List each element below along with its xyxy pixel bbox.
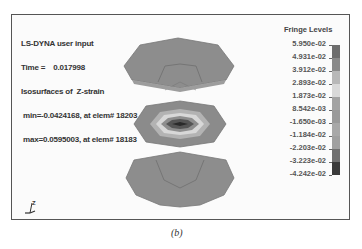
- legend-color-swatch: [332, 149, 340, 162]
- legend-label: 2.893e-02: [266, 78, 326, 87]
- axis-triad-icon: Z: [24, 200, 40, 217]
- legend-tick: [329, 175, 332, 176]
- legend-label: -1.650e-03: [266, 117, 326, 126]
- legend-color-swatch: [332, 45, 340, 58]
- figure-caption: (b): [171, 227, 183, 238]
- legend-title: Fringe Levels: [284, 25, 332, 34]
- legend-color-swatch: [332, 123, 340, 136]
- legend-label: -1.184e-02: [266, 130, 326, 139]
- svg-text:Z: Z: [32, 200, 36, 206]
- legend-color-swatch: [332, 71, 340, 84]
- legend-label: 1.873e-02: [266, 91, 326, 100]
- legend-label: 5.950e-02: [266, 39, 326, 48]
- legend-color-swatch: [332, 58, 340, 71]
- legend-color-swatch: [332, 162, 340, 175]
- legend-color-swatch: [332, 97, 340, 110]
- bottom-isosurface: [126, 152, 234, 207]
- legend-color-swatch: [332, 110, 340, 123]
- legend-color-swatch: [332, 136, 340, 149]
- legend-label: 4.931e-02: [266, 52, 326, 61]
- legend-label: 3.912e-02: [266, 65, 326, 74]
- legend-label: -3.223e-02: [266, 156, 326, 165]
- legend-label: -2.203e-02: [266, 143, 326, 152]
- legend-label: -4.242e-02: [266, 169, 326, 178]
- legend-label: 8.542e-03: [266, 104, 326, 113]
- top-isosurface: [124, 38, 234, 88]
- legend-color-swatch: [332, 84, 340, 97]
